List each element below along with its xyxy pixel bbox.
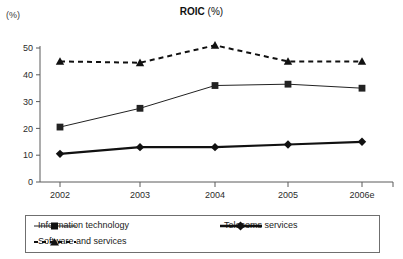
x-tick-label: 2003 — [130, 190, 150, 200]
y-tick-label: 20 — [23, 124, 33, 134]
legend-item-telecoms-services: Telecoms services — [219, 220, 298, 230]
chart-legend: Information technology Telecoms services… — [25, 215, 380, 253]
legend-item-software-and-services: Software and services — [33, 236, 127, 246]
legend-swatch-square-line-icon — [33, 220, 77, 232]
legend-item-information-technology: Information technology — [33, 220, 129, 230]
y-tick-label: 10 — [23, 150, 33, 160]
y-tick-label: 40 — [23, 70, 33, 80]
data-point-marker-triangle — [358, 57, 366, 65]
y-tick-label: 30 — [23, 97, 33, 107]
data-point-marker-square — [137, 105, 144, 112]
legend-swatch-triangle-dashed-icon — [33, 236, 77, 248]
y-tick-label: 50 — [23, 43, 33, 53]
plot-area: 0102030405020022003200420052006e — [0, 0, 403, 215]
x-tick-label: 2006e — [349, 190, 374, 200]
y-tick-label: 0 — [28, 177, 33, 187]
data-point-marker-square — [57, 124, 64, 131]
data-point-marker-diamond — [211, 143, 219, 151]
x-tick-label: 2002 — [50, 190, 70, 200]
data-point-marker-square — [285, 81, 292, 88]
x-tick-label: 2004 — [205, 190, 225, 200]
data-point-marker-diamond — [56, 150, 64, 158]
data-point-marker-diamond — [284, 140, 292, 148]
data-point-marker-diamond — [358, 138, 366, 146]
data-point-marker-diamond — [136, 143, 144, 151]
legend-swatch-diamond-line-icon — [219, 220, 263, 232]
series-line-0 — [60, 84, 362, 127]
series-line-2 — [60, 45, 362, 62]
series-line-1 — [60, 142, 362, 154]
data-point-marker-square — [359, 85, 366, 92]
data-point-marker-triangle — [211, 41, 219, 49]
data-point-marker-square — [212, 82, 219, 89]
x-tick-label: 2005 — [278, 190, 298, 200]
roic-chart: (%) ROIC (%) 010203040502002200320042005… — [0, 0, 403, 259]
